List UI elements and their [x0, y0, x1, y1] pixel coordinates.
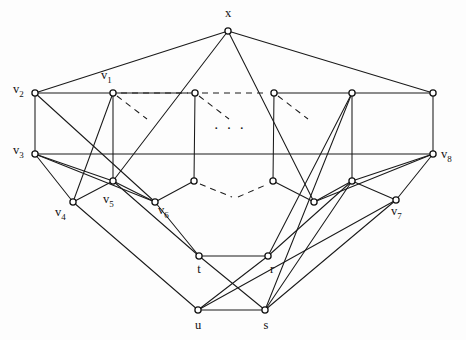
graph-vertex-v8	[430, 151, 436, 157]
graph-vertex-u	[195, 307, 201, 313]
graph-vertex-a4	[271, 90, 277, 96]
graph-vertex-a5	[349, 90, 355, 96]
vertex-label-subscript: 6	[164, 210, 169, 220]
graph-vertex-v3	[32, 151, 38, 157]
graph-edge	[265, 93, 352, 310]
vertex-label-u: u	[195, 318, 202, 332]
graph-edge	[35, 154, 155, 202]
ellipsis-dots-top: · · ·	[214, 120, 247, 136]
graph-edge	[314, 154, 433, 202]
graph-vertex-r	[265, 253, 271, 259]
graph-edge	[73, 93, 113, 202]
graph-vertex-b4	[270, 178, 276, 184]
graph-diagram: xv2v1v3v8v5v4v6v7trus · · ·	[0, 0, 466, 340]
vertex-label-subscript: 1	[107, 75, 112, 85]
vertex-label-subscript: 2	[19, 89, 24, 99]
vertex-label-v5: v5	[103, 192, 114, 209]
vertex-label-v2: v2	[13, 82, 24, 99]
dashed-edge-layer	[117, 93, 308, 197]
graph-edge-dashed	[200, 184, 232, 197]
vertex-label-v8: v8	[441, 147, 452, 164]
graph-edge	[273, 181, 314, 202]
graph-vertex-v5	[110, 178, 116, 184]
graph-vertex-v7	[393, 197, 399, 203]
graph-edge	[35, 154, 113, 181]
graph-edge	[228, 31, 433, 93]
graph-edge	[155, 181, 194, 202]
graph-edge	[265, 200, 396, 310]
graph-edge	[194, 93, 195, 181]
vertex-label-v1: v1	[101, 68, 112, 85]
figure-container: xv2v1v3v8v5v4v6v7trus · · ·	[0, 0, 466, 340]
graph-edge	[352, 154, 433, 181]
edge-layer	[35, 31, 433, 310]
graph-edge-dashed	[278, 96, 308, 119]
graph-vertex-b3	[191, 178, 197, 184]
vertex-label-subscript: 8	[447, 154, 452, 164]
graph-edge	[35, 93, 155, 202]
graph-edge	[268, 181, 352, 256]
graph-vertex-x	[225, 28, 231, 34]
graph-vertex-a3	[192, 90, 198, 96]
graph-vertex-v4	[70, 199, 76, 205]
vertex-label-subscript: 3	[19, 150, 24, 160]
graph-edge-dashed	[199, 96, 229, 119]
vertex-label-s: s	[264, 318, 269, 332]
vertex-layer	[32, 28, 436, 313]
graph-edge-dashed	[238, 184, 268, 197]
graph-vertex-t	[196, 253, 202, 259]
graph-edge	[273, 93, 274, 181]
vertex-label-v3: v3	[13, 143, 24, 160]
vertex-label-subscript: 5	[109, 199, 114, 209]
graph-edge	[198, 200, 396, 310]
vertex-label-r: r	[270, 262, 275, 276]
vertex-label-v6: v6	[158, 203, 169, 220]
graph-edge-dashed	[117, 96, 147, 119]
graph-vertex-v2	[32, 90, 38, 96]
graph-edge	[113, 181, 199, 256]
graph-edge	[228, 31, 314, 202]
graph-vertex-c4	[311, 199, 317, 205]
vertex-label-x: x	[225, 6, 232, 20]
graph-vertex-a6	[430, 90, 436, 96]
vertex-label-t: t	[197, 262, 201, 276]
graph-vertex-v1	[110, 90, 116, 96]
graph-edge	[35, 31, 228, 93]
vertex-label-subscript: 7	[397, 211, 402, 221]
graph-edge	[73, 202, 198, 310]
graph-vertex-s	[262, 307, 268, 313]
vertex-label-v4: v4	[55, 205, 66, 222]
graph-vertex-b5	[349, 178, 355, 184]
vertex-label-subscript: 4	[61, 212, 66, 222]
vertex-label-v7: v7	[391, 204, 402, 221]
graph-edge	[314, 181, 352, 202]
